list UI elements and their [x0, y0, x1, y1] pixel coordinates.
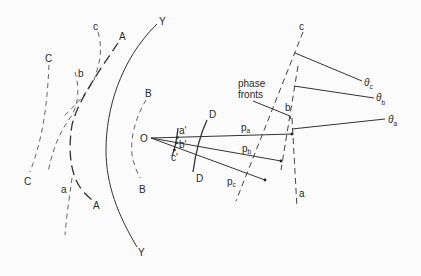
label-D-top: D — [209, 109, 216, 120]
label-theta-a: θa — [388, 114, 397, 127]
curve-C — [30, 65, 49, 172]
point-c-prime — [173, 149, 176, 152]
label-c-prime: c' — [171, 152, 178, 163]
label-front-b: b — [285, 102, 291, 113]
curve-Y — [106, 24, 157, 247]
label-a-prime: a' — [179, 125, 187, 136]
label-p-c: pc — [227, 176, 237, 188]
theta-b-line — [294, 86, 374, 98]
front-c — [236, 32, 303, 201]
label-fronts: fronts — [238, 89, 263, 100]
label-a-left: a — [61, 184, 67, 195]
label-front-c: c — [299, 21, 304, 32]
label-b-left: b — [78, 68, 84, 79]
label-B-bottom: B — [139, 184, 146, 195]
label-C-top: C — [45, 53, 52, 64]
label-A-bottom: A — [93, 200, 100, 211]
label-p-a: pa — [241, 122, 251, 134]
label-D-bottom: D — [196, 173, 203, 184]
ray-c — [151, 138, 265, 180]
label-B-top: B — [145, 88, 152, 99]
curve-A — [70, 43, 118, 202]
ray-a — [151, 134, 292, 138]
theta-a-line — [292, 119, 385, 129]
label-C-bottom: C — [24, 176, 31, 187]
phase-fronts-leader-tick — [290, 116, 291, 119]
label-Y-bottom: Y — [138, 247, 145, 258]
end-b — [280, 160, 283, 163]
theta-c-line — [295, 53, 362, 81]
end-c — [264, 179, 267, 182]
front-a — [292, 118, 297, 208]
label-front-a: a — [299, 188, 305, 199]
label-c-left: c — [93, 21, 98, 32]
label-A-top: A — [119, 31, 126, 42]
label-p-b: pb — [242, 143, 252, 155]
label-Y-top: Y — [159, 16, 166, 27]
label-phase: phase — [238, 78, 266, 89]
label-theta-c: θc — [364, 77, 373, 90]
label-theta-b: θb — [376, 92, 385, 106]
diagram-canvas: C C c b A A a Y Y B B O a' b' c' D D pa … — [0, 0, 421, 276]
label-origin: O — [140, 133, 148, 144]
